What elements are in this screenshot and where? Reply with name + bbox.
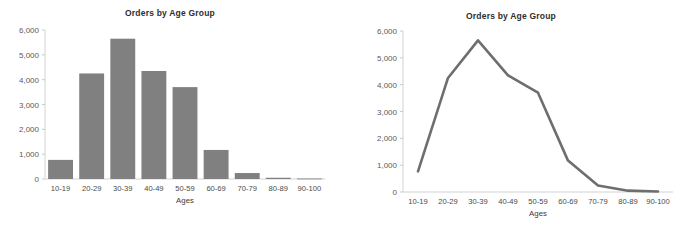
x-axis-title: Ages — [529, 209, 547, 218]
x-tick-label: 70-79 — [588, 197, 607, 206]
y-tick-label: 5,000 — [377, 54, 398, 63]
line-chart-panel: Orders by Age Group 01,0002,0003,0004,00… — [341, 0, 681, 230]
x-tick-label: 20-29 — [82, 184, 101, 193]
bar-10-19 — [48, 160, 73, 179]
y-tick-label: 2,000 — [377, 134, 398, 143]
x-tick-label: 90-100 — [646, 197, 670, 206]
bar-30-39 — [110, 39, 135, 179]
x-tick-label: 90-100 — [298, 184, 322, 193]
x-tick-label: 40-49 — [498, 197, 517, 206]
y-tick-label: 3,000 — [377, 108, 398, 117]
x-tick-label: 70-79 — [238, 184, 257, 193]
bar-20-29 — [79, 73, 104, 179]
y-tick-label: 2,000 — [19, 125, 40, 134]
x-tick-label: 40-49 — [144, 184, 163, 193]
x-tick-label: 60-69 — [558, 197, 577, 206]
figure-canvas: Orders by Age Group 01,0002,0003,0004,00… — [0, 0, 681, 230]
bar-60-69 — [204, 150, 229, 179]
y-tick-label: 0 — [35, 175, 40, 184]
line-chart-plot: 01,0002,0003,0004,0005,0006,00010-1920-2… — [341, 0, 681, 230]
x-tick-label: 10-19 — [51, 184, 70, 193]
y-tick-label: 5,000 — [19, 51, 40, 60]
x-tick-label: 30-39 — [468, 197, 487, 206]
bar-70-79 — [235, 173, 260, 179]
x-tick-label: 80-89 — [618, 197, 637, 206]
y-tick-label: 4,000 — [19, 76, 40, 85]
x-tick-label: 80-89 — [269, 184, 288, 193]
bar-80-89 — [266, 178, 291, 179]
bar-40-49 — [141, 71, 166, 179]
x-tick-label: 30-39 — [113, 184, 132, 193]
bar-90-100 — [297, 179, 322, 180]
y-tick-label: 3,000 — [19, 101, 40, 110]
orders-line-series — [418, 40, 658, 191]
y-tick-label: 6,000 — [19, 26, 40, 35]
x-tick-label: 50-59 — [528, 197, 547, 206]
bar-chart-plot: 01,0002,0003,0004,0005,0006,00010-1920-2… — [0, 0, 340, 230]
x-axis-title: Ages — [176, 196, 194, 205]
x-tick-label: 60-69 — [206, 184, 225, 193]
y-tick-label: 4,000 — [377, 81, 398, 90]
x-tick-label: 10-19 — [408, 197, 427, 206]
y-tick-label: 1,000 — [19, 150, 40, 159]
y-tick-label: 1,000 — [377, 161, 398, 170]
bar-chart-panel: Orders by Age Group 01,0002,0003,0004,00… — [0, 0, 340, 230]
x-tick-label: 20-29 — [438, 197, 457, 206]
bar-50-59 — [173, 87, 198, 179]
y-tick-label: 6,000 — [377, 27, 398, 36]
y-tick-label: 0 — [393, 188, 398, 197]
x-tick-label: 50-59 — [175, 184, 194, 193]
